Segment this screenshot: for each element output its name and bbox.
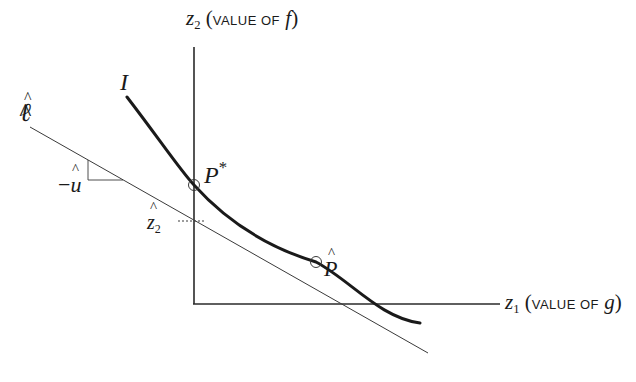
line-label-hat-mark: ^ (24, 90, 32, 106)
y-axis-caption-close: ) (291, 6, 298, 30)
x-axis-variable: z (505, 290, 513, 314)
x-axis-caption: VALUE OF (532, 297, 599, 312)
y-axis-subscript: 2 (194, 18, 200, 32)
slope-minus: − (58, 172, 70, 197)
point-p-star-base: P (204, 162, 219, 188)
slope-hat-mark: ^ (72, 162, 79, 177)
curve-label: I (120, 70, 128, 94)
tangent-line (30, 127, 428, 353)
slope-label: −u (58, 174, 81, 196)
intercept-subscript: 2 (155, 222, 161, 236)
point-p-star-sup: * (219, 158, 227, 177)
x-axis-label: z1 (VALUE OF g) (505, 292, 622, 316)
intercept-hat-mark: ^ (150, 200, 157, 215)
y-axis-variable: z (186, 6, 194, 30)
point-p-hat-label: P (324, 258, 337, 280)
x-axis-subscript: 1 (513, 302, 519, 316)
x-axis-caption-open: ( (525, 290, 532, 314)
x-axis-caption-fn: g (604, 290, 615, 314)
point-p-star-label: P* (204, 160, 227, 187)
intercept-label: z2 (147, 212, 161, 235)
y-axis-label: z2 (VALUE OF f) (186, 8, 298, 32)
indifference-curve (127, 97, 420, 323)
x-axis-caption-close: ) (615, 290, 622, 314)
diagram-canvas (0, 0, 636, 382)
y-axis-caption: VALUE OF (213, 13, 280, 28)
point-p-hat-hat-mark: ^ (328, 246, 335, 261)
y-axis-caption-open: ( (206, 6, 213, 30)
